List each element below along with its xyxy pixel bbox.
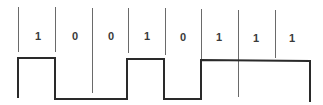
signal-waveform xyxy=(18,58,310,102)
bit-label: 0 xyxy=(108,30,114,42)
bit-label: 1 xyxy=(216,31,222,43)
bit-label: 1 xyxy=(144,30,150,42)
bit-label: 1 xyxy=(253,32,259,44)
bit-label: 0 xyxy=(72,30,78,42)
waveform-diagram: 1 0 0 1 0 1 1 1 xyxy=(0,0,323,105)
bit-label: 1 xyxy=(289,32,295,44)
bit-label: 0 xyxy=(180,31,186,43)
bit-label: 1 xyxy=(35,30,41,42)
bit-dividers xyxy=(19,7,276,97)
